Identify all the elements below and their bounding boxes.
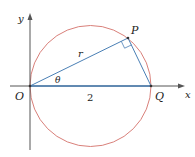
y-axis-arrow-icon [28,13,33,20]
point-p-label: P [130,24,139,37]
angle-label: θ [55,75,61,85]
origin-label: O [15,90,24,103]
y-axis-label: y [17,13,24,24]
polar-diagram: y x O Q P r θ 2 [0,0,195,157]
point-o [29,85,32,88]
segment-op [30,38,128,86]
diameter-label: 2 [87,92,93,103]
point-p [127,37,130,40]
radius-label: r [78,48,84,59]
x-axis-arrow-icon [178,84,185,89]
point-q-label: Q [155,90,164,103]
x-axis-label: x [185,89,191,100]
point-q [150,85,153,88]
